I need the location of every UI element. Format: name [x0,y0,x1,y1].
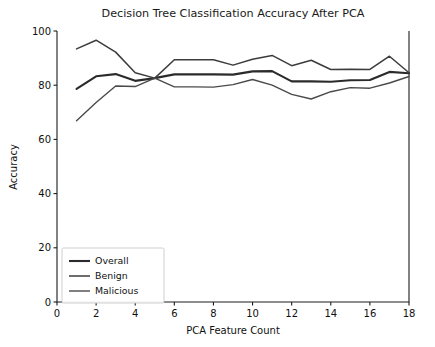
x-tick-label: 12 [285,308,298,319]
chart-figure: Decision Tree Classification Accuracy Af… [0,0,435,347]
y-tick-label: 20 [38,242,51,253]
x-tick-label: 4 [132,308,138,319]
x-tick-label: 14 [324,308,337,319]
x-tick-label: 18 [403,308,416,319]
chart-legend: OverallBenignMalicious [62,248,164,303]
x-tick-label: 6 [171,308,177,319]
y-tick-label: 60 [38,134,51,145]
y-tick-label: 40 [38,188,51,199]
legend-label-malicious: Malicious [95,285,138,296]
chart-title: Decision Tree Classification Accuracy Af… [102,7,365,20]
y-tick-label: 100 [32,26,51,37]
x-tick-label: 8 [210,308,216,319]
x-tick-label: 16 [364,308,377,319]
x-tick-label: 0 [54,308,60,319]
x-axis-label: PCA Feature Count [186,325,280,336]
y-tick-label: 0 [45,297,51,308]
legend-label-benign: Benign [95,270,128,281]
y-axis-label: Accuracy [8,144,19,190]
x-tick-label: 10 [246,308,259,319]
y-tick-label: 80 [38,80,51,91]
x-tick-label: 2 [93,308,99,319]
legend-label-overall: Overall [95,255,129,266]
chart-svg: Decision Tree Classification Accuracy Af… [0,0,435,347]
